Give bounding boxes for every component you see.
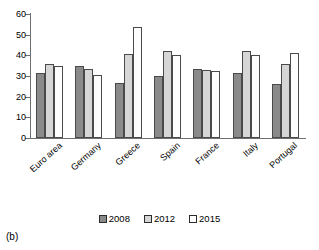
legend-item-2008[interactable]: 2008 [99, 214, 130, 224]
legend-label-2012: 2012 [154, 214, 175, 224]
bar-germany-2015[interactable] [93, 75, 102, 138]
legend-item-2015[interactable]: 2015 [189, 214, 220, 224]
bar-france-2012[interactable] [202, 70, 211, 138]
bar-euro-area-2008[interactable] [36, 73, 45, 138]
x-axis-category-labels: Euro areaGermanyGreeceSpainFranceItalyPo… [30, 139, 306, 201]
y-tick-label: 30 [16, 72, 26, 81]
bar-portugal-2012[interactable] [281, 64, 290, 138]
legend-swatch-2015 [189, 215, 197, 223]
chart-legend: 200820122015 [0, 214, 319, 224]
y-tick-label: 50 [16, 30, 26, 39]
plot-area: 0102030405060 [30, 14, 305, 138]
bar-spain-2012[interactable] [163, 51, 172, 138]
bar-greece-2015[interactable] [133, 27, 142, 138]
bar-portugal-2015[interactable] [290, 53, 299, 138]
bar-portugal-2008[interactable] [272, 84, 281, 138]
bar-group-euro-area [30, 14, 69, 138]
legend-swatch-2012 [144, 215, 152, 223]
bar-group-portugal [266, 14, 305, 138]
bar-group-italy [226, 14, 265, 138]
legend-label-2015: 2015 [199, 214, 220, 224]
legend-item-2012[interactable]: 2012 [144, 214, 175, 224]
bar-spain-2015[interactable] [172, 55, 181, 138]
bar-euro-area-2015[interactable] [54, 66, 63, 138]
figure-caption: (b) [6, 232, 18, 242]
bar-italy-2015[interactable] [251, 55, 260, 138]
y-tick-label: 40 [16, 51, 26, 60]
y-tick-label: 60 [16, 10, 26, 19]
bar-group-spain [148, 14, 187, 138]
bar-italy-2012[interactable] [242, 51, 251, 138]
bar-france-2015[interactable] [211, 71, 220, 138]
y-tick-label: 0 [21, 134, 26, 143]
y-tick-label: 10 [16, 113, 26, 122]
legend-label-2008: 2008 [109, 214, 130, 224]
legend-swatch-2008 [99, 215, 107, 223]
bar-group-france [187, 14, 226, 138]
bar-euro-area-2012[interactable] [45, 64, 54, 138]
y-tick-label: 20 [16, 92, 26, 101]
figure-panel-b: 0102030405060 Euro areaGermanyGreeceSpai… [0, 0, 319, 250]
